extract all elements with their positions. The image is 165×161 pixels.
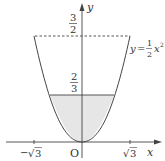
three-halves-numerator: 3	[70, 12, 76, 23]
tick-label-pos-root3: √ 3	[123, 148, 137, 160]
equation-coef-numerator: 1	[147, 39, 152, 48]
pos-root-symbol: √	[123, 148, 130, 159]
pos-radicand: 3	[130, 148, 136, 159]
equation-exp: 2	[160, 41, 164, 48]
equation-coef-denominator: 2	[147, 50, 152, 59]
equation-equals: =	[137, 43, 145, 54]
parabola-diagram: y x O 3 2 2 3 y = 1 2 x 2 − √ 3 √ 3	[0, 0, 165, 161]
y-axis-arrow-icon	[80, 3, 85, 11]
equation-lhs: y	[129, 43, 136, 54]
tick-label-neg-root3: − √ 3	[20, 147, 42, 159]
neg-radicand: 3	[35, 148, 41, 159]
y-axis-label: y	[86, 1, 94, 14]
x-axis-arrow-icon	[154, 140, 162, 145]
label-three-halves: 3 2	[69, 12, 77, 35]
equation-label: y = 1 2 x 2	[129, 39, 164, 59]
three-halves-denominator: 2	[70, 24, 76, 35]
two-thirds-numerator: 2	[71, 71, 77, 82]
label-two-thirds: 2 3	[70, 71, 78, 94]
two-thirds-denominator: 3	[71, 83, 77, 94]
neg-root-symbol: √	[28, 148, 35, 159]
origin-label: O	[70, 147, 79, 160]
x-axis-label: x	[147, 146, 154, 159]
